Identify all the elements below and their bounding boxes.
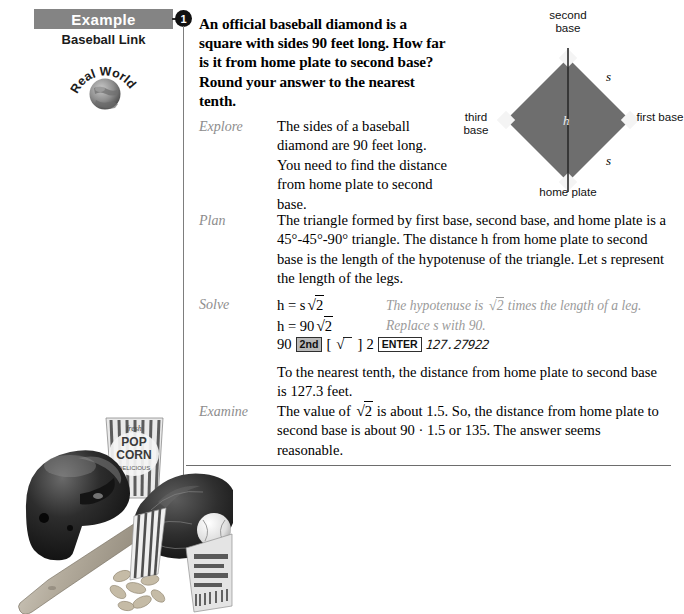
equation-1-radicand: 2 [315,295,324,315]
step-label-plan: Plan [199,213,225,229]
baseball-diamond-diagram: second base home plate third base first … [470,22,666,194]
equation-1-note-pre: The hypotenuse is [386,298,487,313]
equation-2-radicand: 2 [324,316,333,336]
step-body-plan: The triangle formed by first base, secon… [277,211,668,289]
ticket [186,534,232,612]
equation-2: h = 90√2 [277,316,387,336]
square-root-icon: √ [335,336,353,353]
equation-1-note-radicand: 2 [496,297,505,314]
equation-1-note: The hypotenuse is √2 times the length of… [386,297,666,314]
diagram-label-first-base: first base [636,110,684,123]
examine-radicand: 2 [364,401,373,421]
square-root-icon: √2 [314,316,333,336]
calculator-keystroke-sequence: 90 2nd [ √ ] 2 ENTER 127.27922 [277,336,488,353]
calc-argument: 2 [366,336,373,353]
svg-text:fresh: fresh [126,424,142,433]
real-world-badge: Real World [70,50,140,112]
calc-operand: 90 [277,336,292,353]
square-root-icon: √2 [306,295,325,315]
calc-key-2nd[interactable]: 2nd [296,337,323,352]
svg-text:CORN: CORN [116,448,151,462]
equation-2-lhs: h = 90 [277,318,314,334]
diagram-label-second-base: second base [536,8,600,34]
example-number-badge: 1 [175,10,192,27]
diagram-var-s-bottom: s [606,153,611,169]
equation-1-note-post: times the length of a leg. [504,298,641,313]
striped-bag [130,508,166,580]
diagram-label-third-base: third base [452,110,500,136]
calc-key-enter[interactable]: ENTER [378,337,422,352]
diamond-figure [470,22,666,194]
diagram-var-s-top: s [606,69,611,85]
calc-bracket-close: ] [358,336,363,353]
globe-icon: Real World [70,50,140,112]
step-label-explore: Explore [199,119,243,135]
equation-1: h = s√2 [277,295,387,315]
svg-text:DELICIOUS: DELICIOUS [118,465,150,471]
square-root-icon: √2 [354,401,373,421]
equation-1-lhs: h = s [277,297,306,313]
step-label-solve: Solve [199,297,229,313]
baseball-link-label: Baseball Link [34,32,173,47]
diagram-var-h: h [563,113,570,129]
equation-2-note: Replace s with 90. [386,318,486,334]
examine-text-pre: The value of [277,403,354,419]
calculator-result: 127.27922 [425,337,489,352]
svg-text:POP: POP [121,435,146,449]
diagram-label-home-plate: home plate [523,185,613,198]
example-label: Example [71,11,136,28]
step-body-examine: The value of √2 is about 1.5. So, the di… [277,401,668,460]
calc-bracket-open: [ [326,336,331,353]
section-divider-rule [186,465,671,466]
problem-statement: An official baseball diamond is a square… [199,14,451,110]
example-header-bar: Example [34,9,173,29]
solve-conclusion: To the nearest tenth, the distance from … [277,363,668,402]
step-body-explore: The sides of a baseball diamond are 90 f… [277,117,447,214]
square-root-icon: √2 [487,297,505,314]
baseball-equipment-photo: POP CORN DELICIOUS fresh [18,398,233,614]
